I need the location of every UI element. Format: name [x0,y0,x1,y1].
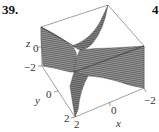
y-tick-2: 2 [64,113,70,124]
y-tick-neg2: −2 [24,62,36,73]
z-axis-label: z [26,38,30,49]
x-tick-2: 2 [74,119,80,130]
x-tick-0: 0 [111,105,117,116]
surface-front-spike [70,72,88,117]
x-axis-label: x [116,118,121,129]
x-tick-neg2: −2 [144,95,156,106]
surface-left-wing [41,27,77,72]
surface-back-spike [72,5,108,50]
y-tick-0: 0 [46,89,52,100]
y-axis-label: y [35,95,40,106]
z-tick-0: 0 [33,43,39,54]
